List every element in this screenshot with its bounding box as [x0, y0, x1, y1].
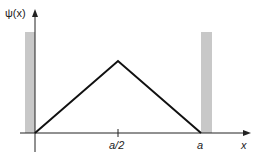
y-axis-arrow-icon — [32, 9, 38, 17]
tick-label-a-half: a/2 — [109, 140, 124, 151]
x-axis-arrow-icon — [243, 130, 251, 136]
diagram-canvas — [0, 0, 269, 164]
left-wall — [25, 32, 35, 133]
right-wall — [201, 32, 212, 133]
wavefunction-curve — [35, 61, 201, 133]
tick-label-a: a — [197, 140, 203, 151]
x-axis-label: x — [241, 140, 247, 151]
y-axis-label: ψ(x) — [5, 8, 26, 19]
